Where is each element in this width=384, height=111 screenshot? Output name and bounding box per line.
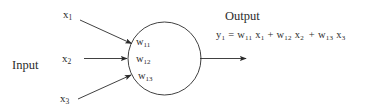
- input-group-label: Input: [12, 59, 38, 72]
- output-group-label: Output: [225, 10, 260, 23]
- diagram-vector-layer: [0, 0, 384, 111]
- equation-plus-2: +: [309, 29, 315, 40]
- equation-lhs: y1: [216, 29, 225, 40]
- equation-term-2: w12x2: [277, 29, 304, 40]
- equation-term-3: w13x3: [318, 29, 345, 40]
- equation-plus-1: +: [267, 29, 273, 40]
- input-label-x1: x1: [63, 9, 72, 21]
- weight-label-w12: w12: [136, 54, 151, 66]
- input-label-x2: x2: [62, 53, 71, 65]
- weight-label-w11: w11: [136, 37, 150, 49]
- input-label-x3: x3: [60, 93, 69, 105]
- neuron-diagram-canvas: Input Output x1 x2 x3 w11 w12 w13 y1=w11…: [0, 0, 384, 111]
- connection-arrow-x3: [78, 75, 131, 99]
- connection-arrow-x1: [80, 20, 132, 44]
- weight-label-w13: w13: [138, 71, 153, 83]
- equation-term-1: w11x1: [237, 29, 264, 40]
- equation-equals: =: [228, 29, 234, 40]
- output-equation: y1=w11x1+w12x2+w13x3: [216, 30, 345, 42]
